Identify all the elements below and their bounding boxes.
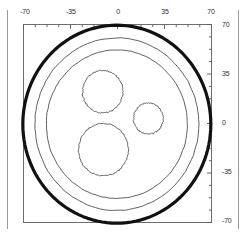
contour-conductor-right: [133, 103, 163, 135]
contour-outer-insulation: [35, 38, 199, 211]
contour-series-group: [23, 25, 211, 223]
contour-plot-canvas: [0, 0, 251, 235]
contour-inner-bedding: [46, 50, 187, 198]
figure-root: -70 -35 0 35 70 70 35 0 -35 -70: [0, 0, 251, 235]
contour-outer-sheath: [23, 25, 211, 223]
contour-conductor-lower: [78, 123, 129, 176]
contour-conductor-upper-left: [82, 70, 123, 113]
